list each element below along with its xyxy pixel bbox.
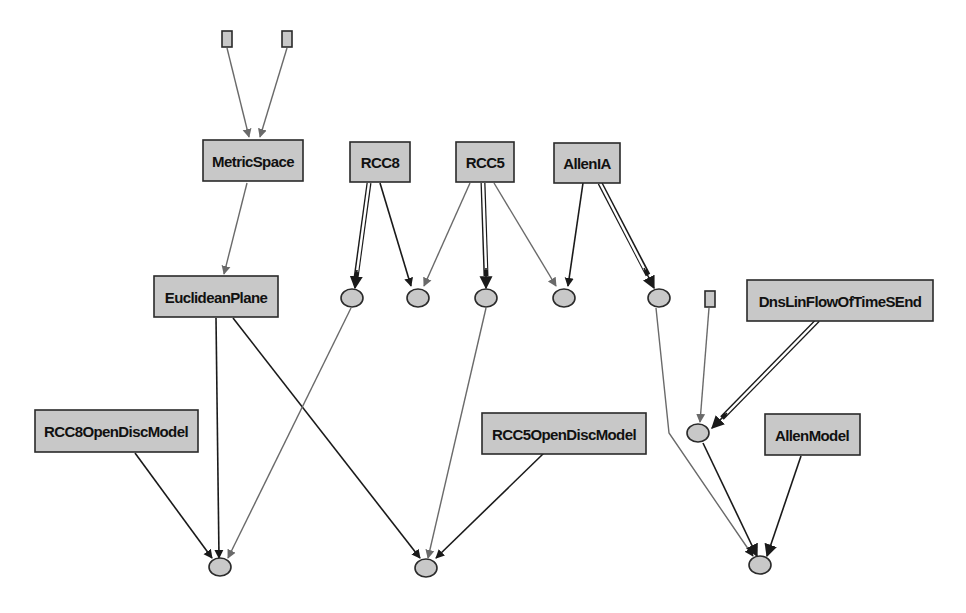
- edge-euclideanplane-bottom1: [216, 318, 219, 558]
- node-label: RCC8OpenDiscModel: [44, 423, 188, 440]
- node-label: AllenModel: [775, 427, 849, 444]
- small-box-node[interactable]: [282, 31, 292, 47]
- ellipse-node[interactable]: [648, 289, 670, 307]
- node-label: AllenIA: [563, 155, 611, 172]
- node-label: RCC8: [361, 154, 400, 171]
- ellipse-node[interactable]: [415, 559, 437, 577]
- edge-smallbox1-metricspace: [227, 48, 249, 137]
- ellipse-node[interactable]: [687, 424, 709, 442]
- edge-rcc5-ellipse3-double: [483, 183, 486, 288]
- node-rcc5[interactable]: RCC5: [456, 142, 514, 182]
- ellipse-node[interactable]: [553, 289, 575, 307]
- edge-ellipse6-bottom3: [703, 443, 757, 556]
- node-label: RCC5: [466, 154, 505, 171]
- edge-allenmodel-bottom3: [767, 456, 801, 556]
- node-euclideanplane[interactable]: EuclideanPlane: [154, 276, 278, 317]
- edge-dnslinflow-ellipse6-double: [712, 320, 818, 428]
- node-allenia[interactable]: AllenIA: [554, 143, 620, 183]
- edge-rcc8-ellipse2: [380, 183, 411, 286]
- node-label: MetricSpace: [212, 153, 294, 170]
- ellipse-node[interactable]: [749, 556, 771, 574]
- edge-smallbox2-metricspace: [260, 48, 287, 137]
- ellipse-node[interactable]: [475, 289, 497, 307]
- edge-ellipse1-bottom1: [228, 308, 351, 558]
- edge-allenia-ellipse4: [568, 183, 583, 286]
- edge-rcc8opendisc-bottom1: [135, 453, 212, 558]
- node-rcc8opendisc[interactable]: RCC8OpenDiscModel: [35, 410, 198, 452]
- edge-allenia-ellipse5-double: [600, 183, 654, 288]
- diagram-canvas: MetricSpace RCC8 RCC5 AllenIA EuclideanP…: [0, 0, 966, 613]
- edge-rcc5-ellipse4: [494, 183, 556, 286]
- edge-metricspace-euclideanplane: [224, 183, 247, 274]
- node-label: DnsLinFlowOfTimeSEnd: [759, 293, 922, 310]
- node-rcc8[interactable]: RCC8: [350, 142, 410, 182]
- node-rcc5opendisc[interactable]: RCC5OpenDiscModel: [482, 413, 646, 454]
- nodes: MetricSpace RCC8 RCC5 AllenIA EuclideanP…: [35, 31, 933, 577]
- ellipse-node[interactable]: [341, 289, 363, 307]
- node-dnslinflow[interactable]: DnsLinFlowOfTimeSEnd: [747, 280, 933, 321]
- node-metricspace[interactable]: MetricSpace: [203, 140, 303, 181]
- node-allenmodel[interactable]: AllenModel: [765, 414, 860, 455]
- small-box-node[interactable]: [222, 31, 232, 47]
- ellipse-node[interactable]: [209, 558, 231, 576]
- edge-smallbox3-ellipse6: [700, 308, 709, 422]
- edge-rcc5opendisc-bottom2: [436, 453, 544, 558]
- edge-euclideanplane-bottom2: [233, 318, 420, 558]
- ellipse-node[interactable]: [407, 289, 429, 307]
- node-label: RCC5OpenDiscModel: [492, 426, 636, 443]
- small-box-node[interactable]: [705, 291, 715, 307]
- node-label: EuclideanPlane: [165, 289, 268, 306]
- edge-rcc8-ellipse1-double: [355, 183, 369, 288]
- edge-rcc5-ellipse2: [424, 183, 470, 286]
- edge-ellipse3-bottom2: [428, 308, 486, 558]
